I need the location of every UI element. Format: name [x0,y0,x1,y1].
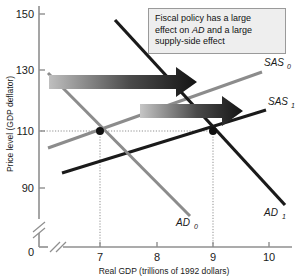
annotation-ad-emphasis: AD [192,25,205,35]
sas-shift-arrow [140,96,243,126]
curve-label-sas0-text: SAS [264,57,284,68]
curve-label-sas1: SAS 1 [268,96,295,109]
ad-shift-arrow [49,67,197,97]
x-axis [39,242,292,252]
annotation-box: Fiscal policy has a large effect on AD a… [148,8,286,54]
y-tick-label-90: 90 [22,182,34,194]
x-tick-label-8: 8 [154,251,160,263]
curve-label-ad0: AD 0 [175,217,198,230]
curve-label-sas0-sub: 0 [287,63,291,70]
y-axis-title: Price level (GDP deflator) [5,76,15,172]
initial-equilibrium-point [96,127,104,135]
y-tick-label-0: 0 [28,246,34,258]
curve-label-sas1-text: SAS [268,96,288,107]
annotation-line-3: supply-side effect [155,36,279,48]
x-tick-label-9: 9 [210,251,216,263]
curve-label-ad0-text: AD [175,217,190,228]
y-tick-label-130: 130 [16,64,34,76]
curve-ad0 [48,73,190,216]
curve-label-ad1-sub: 1 [282,213,286,220]
y-tick-label-150: 150 [16,8,34,20]
new-equilibrium-point [209,127,217,135]
curve-label-ad1: AD 1 [263,207,286,220]
curve-label-sas1-sub: 1 [291,102,295,109]
x-tick-label-7: 7 [97,251,103,263]
annotation-line-2-post: and a large [204,25,252,35]
annotation-line-1: Fiscal policy has a large [155,13,279,25]
curve-label-ad0-sub: 0 [194,223,198,230]
fiscal-policy-ad-sas-chart: 150 130 110 90 0 7 8 9 10 [0,0,298,280]
x-axis-title: Real GDP (trillions of 1992 dollars) [99,266,230,276]
curve-label-ad1-text: AD [263,207,278,218]
y-axis-ticks [39,14,45,188]
x-tick-label-10: 10 [263,251,275,263]
annotation-line-2: effect on AD and a large [155,25,279,37]
y-axis [33,6,45,247]
annotation-line-2-pre: effect on [155,25,192,35]
guide-lines [41,131,213,247]
curve-label-sas0: SAS 0 [264,57,291,70]
y-tick-label-110: 110 [16,125,34,137]
